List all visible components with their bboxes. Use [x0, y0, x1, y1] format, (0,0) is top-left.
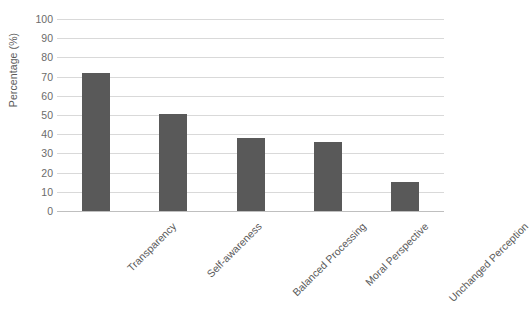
x-axis-label: Transparency — [124, 220, 178, 274]
bar — [159, 114, 187, 211]
y-tick-label-80: 80 — [20, 52, 53, 63]
y-tick-label-70: 70 — [20, 71, 53, 82]
bar — [391, 182, 419, 211]
y-tick-label-20: 20 — [20, 167, 53, 178]
y-tick-label-50: 50 — [20, 110, 53, 121]
x-axis-label: Moral Perspective — [363, 220, 431, 288]
x-axis-label: Self-awareness — [204, 220, 264, 280]
y-tick-label-10: 10 — [20, 187, 53, 198]
y-axis-title: Percentage (%) — [7, 15, 19, 125]
plot-area — [57, 19, 444, 211]
y-tick-label-30: 30 — [20, 148, 53, 159]
bar — [314, 142, 342, 211]
bar — [82, 73, 110, 211]
bar — [237, 138, 265, 211]
y-tick-label-90: 90 — [20, 33, 53, 44]
bars-group — [57, 19, 444, 211]
x-axis-label: Unchanged Perception — [447, 220, 531, 304]
y-tick-label-100: 100 — [20, 14, 53, 25]
y-axis-tick-labels: 0102030405060708090100 — [20, 19, 53, 211]
y-tick-label-60: 60 — [20, 91, 53, 102]
y-tick-label-0: 0 — [20, 206, 53, 217]
x-axis-label: Balanced Processing — [289, 220, 367, 298]
y-tick-label-40: 40 — [20, 129, 53, 140]
x-axis-category-labels: TransparencySelf-awarenessBalanced Proce… — [57, 212, 444, 322]
